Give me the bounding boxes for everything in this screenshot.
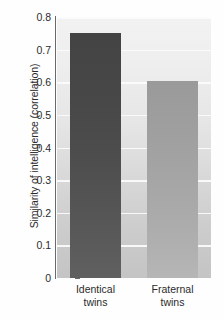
y-tick-label: 0.5 [24,109,51,121]
x-tick-label-line: twins [56,296,136,309]
y-tick-mark [75,278,80,279]
bar-chart-figure: Similarity of intelligence (correlation)… [0,0,224,320]
y-tick-label: 0.2 [24,207,51,219]
x-tick-label-line: twins [133,296,213,309]
y-tick-label: 0 [24,272,51,284]
y-axis-tick-labels: 00.10.20.30.40.50.60.70.8 [24,17,51,278]
gridline [57,17,211,19]
x-tick-label-identical-twins: Identicaltwins [56,283,136,308]
x-tick-label-line: Fraternal [133,283,213,296]
x-tick-label-line: Identical [56,283,136,296]
bar-fraternal-twins [147,81,198,278]
plot-area [57,17,211,278]
y-tick-label: 0.8 [24,11,51,23]
y-tick-label: 0.1 [24,239,51,251]
y-tick-label: 0.6 [24,76,51,88]
y-tick-label: 0.7 [24,44,51,56]
x-tick-label-fraternal-twins: Fraternaltwins [133,283,213,308]
y-tick-label: 0.4 [24,142,51,154]
y-tick-label: 0.3 [24,174,51,186]
bar-identical-twins [70,33,121,278]
